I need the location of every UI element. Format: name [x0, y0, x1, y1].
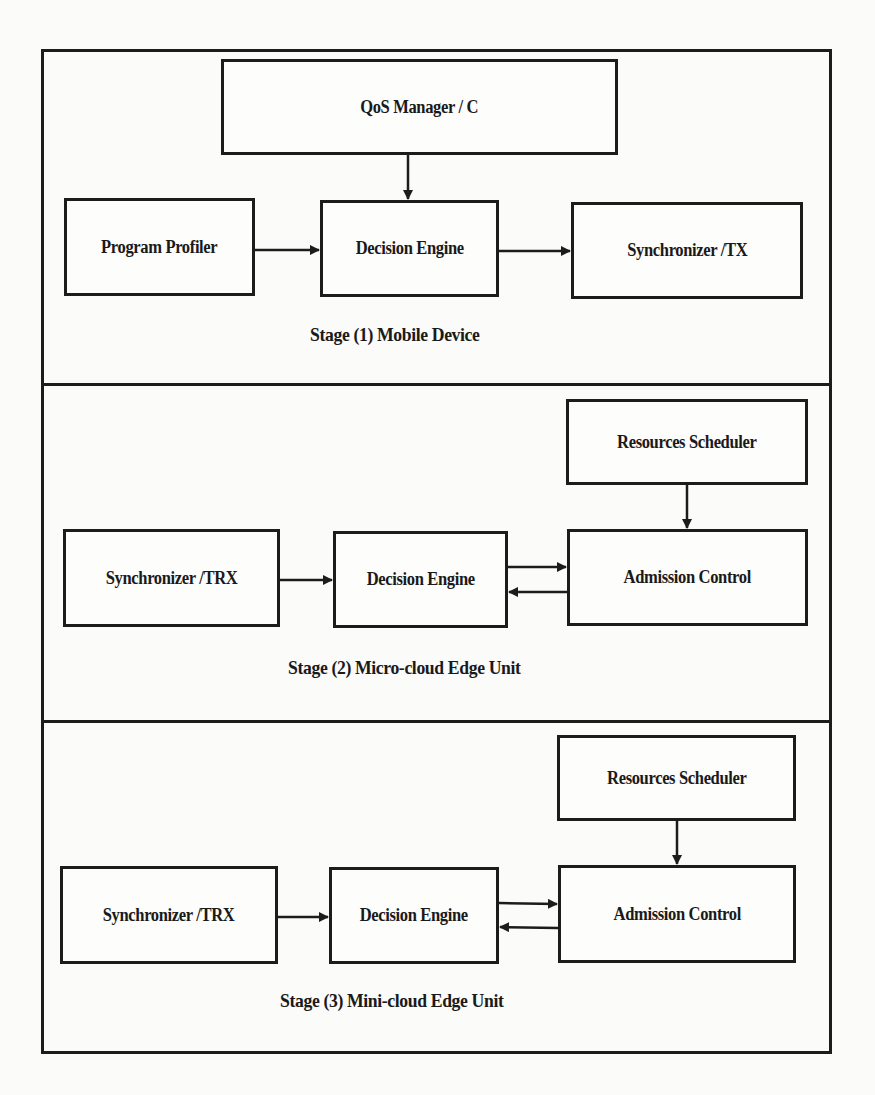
stage-3-label: Stage (3) Mini-cloud Edge Unit	[280, 990, 520, 1012]
qos-manager-label: QoS Manager / C	[361, 97, 479, 118]
synchronizer-trx-label: Synchronizer /TRX	[106, 568, 238, 589]
qos-manager-block: QoS Manager / C	[221, 59, 618, 155]
resources-scheduler-label: Resources Scheduler	[617, 432, 756, 453]
admission-control-block-stage2: Admission Control	[567, 529, 808, 626]
stage-divider-1	[41, 383, 832, 386]
decision-engine-block-stage3: Decision Engine	[329, 867, 499, 964]
admission-control-block-stage3: Admission Control	[558, 865, 796, 963]
resources-scheduler-block-stage2: Resources Scheduler	[566, 399, 808, 485]
synchronizer-tx-block: Synchronizer /TX	[571, 202, 803, 299]
program-profiler-block: Program Profiler	[64, 198, 255, 296]
decision-engine-label: Decision Engine	[366, 569, 474, 590]
program-profiler-label: Program Profiler	[101, 237, 217, 258]
stage-2-label: Stage (2) Micro-cloud Edge Unit	[288, 657, 538, 679]
decision-engine-block-stage2: Decision Engine	[333, 531, 508, 628]
synchronizer-tx-label: Synchronizer /TX	[627, 240, 747, 261]
stage-1-label: Stage (1) Mobile Device	[310, 324, 492, 346]
admission-control-label: Admission Control	[624, 567, 751, 588]
stage-divider-2	[41, 720, 832, 723]
admission-control-label: Admission Control	[613, 904, 740, 925]
decision-engine-block-stage1: Decision Engine	[320, 200, 499, 297]
synchronizer-trx-label: Synchronizer /TRX	[103, 905, 235, 926]
synchronizer-trx-block-stage2: Synchronizer /TRX	[63, 529, 280, 627]
decision-engine-label: Decision Engine	[360, 905, 468, 926]
decision-engine-label: Decision Engine	[355, 238, 463, 259]
resources-scheduler-label: Resources Scheduler	[607, 768, 746, 789]
synchronizer-trx-block-stage3: Synchronizer /TRX	[60, 866, 278, 964]
resources-scheduler-block-stage3: Resources Scheduler	[557, 735, 796, 821]
